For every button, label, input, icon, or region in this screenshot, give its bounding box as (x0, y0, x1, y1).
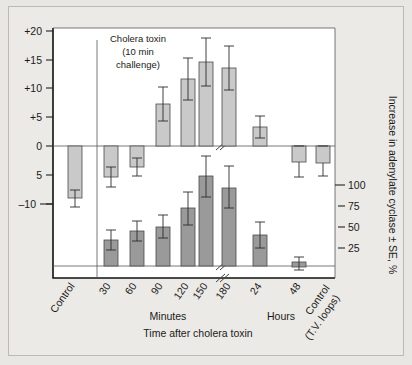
ytick-right-label-75: 75 (348, 200, 360, 212)
chart-canvas: +20 +15 +10 +5 0 5 –10 100 75 50 25 Incr… (0, 0, 412, 365)
ytick-right-label-100: 100 (348, 179, 366, 191)
right-axis-title: Increase in adenylate cyclase ± SE, % (387, 96, 399, 275)
ytick-label-plus20: +20 (24, 25, 42, 37)
right-axis-ticks (335, 185, 345, 248)
xtick-label-control: Control (47, 280, 76, 315)
ytick-label-plus5: +5 (30, 111, 42, 123)
ytick-label-plus15: +15 (24, 54, 42, 66)
xtick-label-48h: 48 (286, 280, 303, 297)
annotation-line-2: (10 min (122, 46, 154, 57)
x-axis-title: Time after cholera toxin (143, 327, 252, 339)
xtick-label-180: 180 (213, 280, 233, 301)
xtick-label-90: 90 (148, 280, 165, 297)
xtick-label-120: 120 (171, 280, 191, 301)
bar-upper-control (68, 146, 82, 207)
xtick-label-60: 60 (122, 280, 139, 297)
ytick-label-plus10: +10 (24, 82, 42, 94)
annotation-line-1: Cholera toxin (110, 33, 166, 44)
ytick-label-minus5: 5 (36, 169, 42, 181)
xtick-label-24h: 24 (247, 280, 264, 297)
annotation-line-3: challenge) (116, 59, 160, 70)
xtick-label-30: 30 (96, 280, 113, 297)
xtick-label-150: 150 (190, 280, 210, 301)
ytick-label-minus10: –10 (18, 198, 36, 210)
ytick-right-label-50: 50 (348, 221, 360, 233)
ytick-label-zero: 0 (36, 140, 42, 152)
group-label-hours: Hours (267, 310, 295, 322)
figure-root: +20 +15 +10 +5 0 5 –10 100 75 50 25 Incr… (0, 0, 412, 365)
group-label-minutes: Minutes (150, 310, 187, 322)
ytick-right-label-25: 25 (348, 242, 360, 254)
